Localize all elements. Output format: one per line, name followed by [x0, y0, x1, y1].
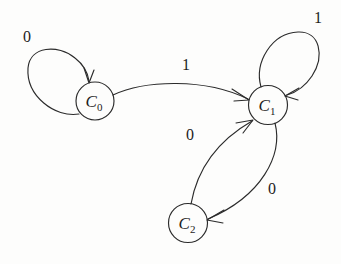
edge-c0-to-c1-arrowhead [232, 89, 249, 101]
edge-c0-to-c1 [113, 83, 249, 101]
node-c1-label-letter: C [259, 96, 271, 115]
node-c0-label-subscript: 0 [97, 101, 103, 113]
edge-c1-to-c1-arrowhead [285, 88, 299, 100]
edge-c0-to-c0-path [28, 49, 89, 114]
node-c0[interactable]: C0 [76, 82, 114, 120]
state-diagram-figure: C0 C1 C2 0 1 1 0 0 [0, 0, 341, 264]
edge-label-c1-self: 1 [314, 9, 322, 26]
edge-c0-to-c0 [28, 49, 94, 114]
node-c2[interactable]: C2 [169, 204, 208, 243]
edge-label-c1-c2: 0 [268, 180, 276, 197]
edge-label-c0-c1: 1 [182, 56, 190, 73]
edge-c1-to-c2 [207, 123, 277, 223]
diagram-canvas: C0 C1 C2 0 1 1 0 0 [0, 0, 341, 264]
edge-c1-to-c2-path [208, 123, 277, 219]
edge-label-c2-c1: 0 [186, 126, 194, 143]
edge-c0-to-c1-path [113, 83, 248, 99]
edge-c1-to-c2-arrowhead [207, 210, 224, 223]
node-c0-label-letter: C [86, 92, 98, 111]
node-c1-label-subscript: 1 [270, 105, 276, 117]
edge-c2-to-c1 [191, 120, 253, 204]
edge-c1-to-c1 [259, 32, 319, 100]
node-c1-label: C1 [259, 96, 276, 117]
node-c1[interactable]: C1 [249, 86, 288, 125]
edge-label-c0-self: 0 [23, 28, 31, 45]
node-c2-label-subscript: 2 [190, 223, 196, 235]
node-c0-label: C0 [86, 92, 103, 113]
node-c2-label: C2 [179, 214, 196, 235]
node-c2-label-letter: C [179, 214, 191, 233]
